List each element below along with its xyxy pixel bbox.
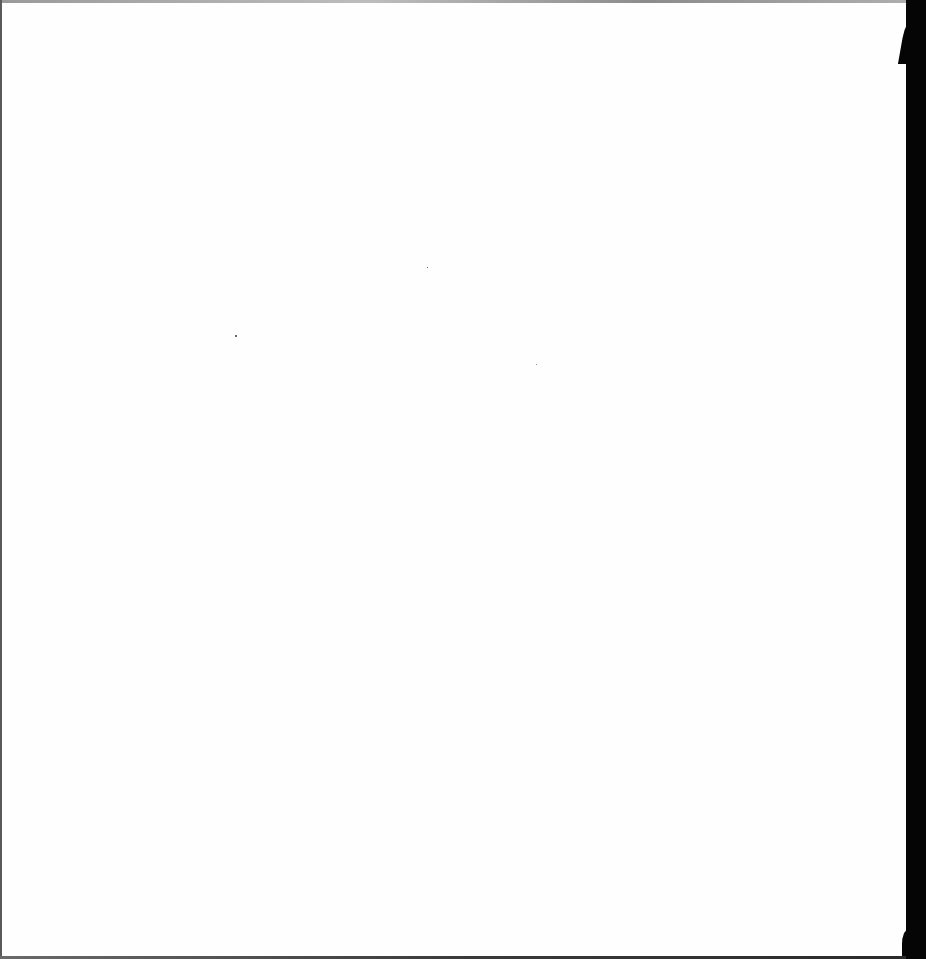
- dust-speck: [427, 267, 428, 268]
- dust-speck: [536, 364, 537, 365]
- scanner-right-border: [906, 0, 926, 959]
- paper-left-edge: [0, 0, 2, 959]
- scanned-page: [0, 0, 926, 959]
- blank-paper-sheet: [2, 3, 906, 955]
- dust-speck: [235, 335, 237, 337]
- page-bottom-corner-shadow: [902, 930, 908, 956]
- paper-top-edge: [0, 0, 926, 3]
